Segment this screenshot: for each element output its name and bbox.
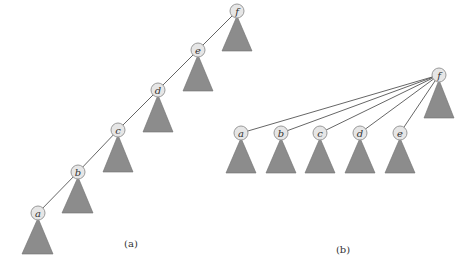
edge-f-d [360,75,439,133]
svg-text:d: d [155,85,161,96]
node-e: e [393,126,407,140]
node-c: c [111,123,125,137]
svg-text:e: e [397,128,403,139]
subtree-f [424,80,454,118]
node-e: e [191,43,205,57]
caption-b: (b) [336,244,350,255]
edge-f-c [320,75,439,133]
panel-a: f e d c b a (a) [22,4,252,254]
subtree-b [266,138,296,173]
subtree-a [22,218,53,254]
node-f: f [230,4,244,18]
node-b: b [274,126,288,140]
node-a: a [234,126,248,140]
node-b: b [71,165,85,179]
path-compression-diagram: f e d c b a (a) [0,0,462,260]
node-f: f [432,68,446,82]
svg-text:c: c [115,125,121,136]
edge-f-a [241,75,439,133]
svg-text:c: c [317,128,323,139]
subtree-c [305,138,335,173]
svg-text:e: e [195,45,201,56]
subtree-e [385,138,415,173]
node-d: d [353,126,367,140]
subtree-b [62,177,93,213]
svg-text:d: d [357,128,363,139]
subtree-a [226,138,256,173]
panel-b: f a b c d e (b) [226,68,454,255]
node-c: c [313,126,327,140]
svg-text:a: a [35,208,41,219]
caption-a: (a) [124,238,138,249]
edge-f-b [281,75,439,133]
svg-text:a: a [238,128,244,139]
subtree-d [345,138,375,173]
node-a: a [31,206,45,220]
svg-text:b: b [75,167,81,178]
svg-text:b: b [278,128,284,139]
node-d: d [151,83,165,97]
